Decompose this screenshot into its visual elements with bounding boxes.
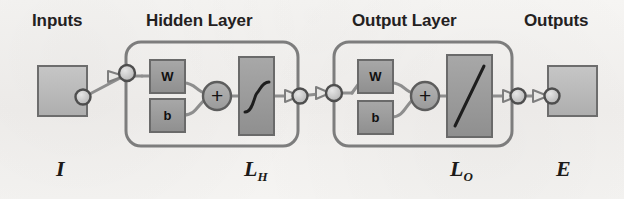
hidden-weight-label: W (150, 69, 185, 84)
bottom-label-hidden-base: L (244, 156, 257, 181)
bottom-label-output-sub: O (463, 169, 472, 184)
output-sum-label: + (419, 85, 431, 106)
label-inputs: Inputs (32, 11, 82, 31)
port-output-output (511, 89, 526, 104)
hidden-sum-label: + (211, 85, 223, 106)
port-hidden-input (119, 65, 135, 81)
bottom-label-input: I (56, 156, 65, 182)
bottom-label-output-base: L (450, 156, 463, 181)
bottom-label-hidden: LH (244, 156, 268, 185)
port-hidden-output (293, 89, 308, 104)
port-output-input (326, 85, 342, 101)
bottom-label-error: E (556, 156, 571, 182)
label-hidden-layer: Hidden Layer (146, 11, 253, 31)
label-outputs: Outputs (524, 11, 588, 31)
neural-network-diagram: Inputs Hidden Layer Output Layer Outputs… (0, 0, 624, 199)
bottom-label-output: LO (450, 156, 473, 185)
output-bias-label: b (358, 110, 393, 125)
port-input-output (76, 90, 91, 105)
hidden-bias-label: b (150, 108, 185, 123)
label-output-layer: Output Layer (352, 11, 457, 31)
output-weight-label: W (358, 69, 393, 84)
wire-hidden-b-to-sum (184, 99, 206, 115)
wire-output-b-to-sum (392, 99, 414, 117)
port-outputs-input (545, 89, 560, 104)
bottom-label-hidden-sub: H (257, 169, 267, 184)
